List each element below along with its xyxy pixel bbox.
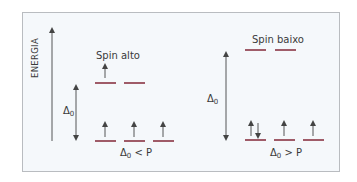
- low-spin-title: Spin baixo: [252, 35, 304, 45]
- high-spin-panel: [76, 66, 174, 141]
- high-spin-gap-label: Δ0: [63, 106, 74, 118]
- energy-axis-label: ENERGIA: [30, 38, 40, 78]
- high-spin-condition: Δ0 < P: [120, 148, 152, 160]
- low-spin-panel: [226, 50, 324, 140]
- electron-spins: [251, 123, 313, 136]
- low-spin-gap-label: Δ0: [207, 94, 218, 106]
- electron-spins: [105, 66, 163, 137]
- low-spin-condition: Δ0 > P: [270, 148, 302, 160]
- energy-diagram: [0, 0, 357, 182]
- high-spin-title: Spin alto: [96, 51, 140, 61]
